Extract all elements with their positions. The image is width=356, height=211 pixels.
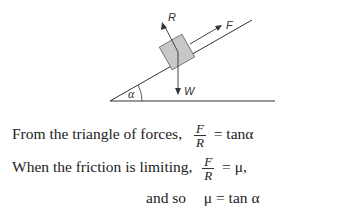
equation-2-prefix: When the friction is limiting,: [12, 158, 192, 175]
equation-line-3: and so μ = tan α: [146, 189, 260, 207]
equation-line-1: From the triangle of forces, F R = tanα: [12, 122, 253, 149]
reaction-label: R: [168, 11, 176, 23]
equation-1-fraction: F R: [194, 122, 206, 149]
angle-arc: [138, 85, 142, 101]
fraction-denominator: R: [202, 169, 214, 182]
equation-1-rhs: = tanα: [214, 125, 254, 142]
block: [159, 34, 194, 69]
equation-line-2: When the friction is limiting, F R = μ,: [12, 155, 247, 182]
fraction-numerator: F: [194, 122, 206, 136]
equation-3-result: μ = tan α: [204, 189, 260, 206]
equation-3-prefix: and so: [146, 189, 186, 206]
equation-2-fraction: F R: [202, 155, 214, 182]
inclined-plane-diagram: α F R W: [0, 0, 356, 110]
weight-label: W: [184, 85, 196, 97]
fraction-numerator: F: [202, 155, 214, 169]
fraction-denominator: R: [194, 136, 206, 149]
friction-arrowhead-icon: [215, 25, 222, 31]
angle-label: α: [128, 87, 135, 101]
friction-label: F: [226, 19, 234, 31]
weight-arrowhead-icon: [175, 88, 181, 95]
equation-2-rhs: = μ,: [222, 158, 247, 175]
equation-1-prefix: From the triangle of forces,: [12, 125, 182, 142]
